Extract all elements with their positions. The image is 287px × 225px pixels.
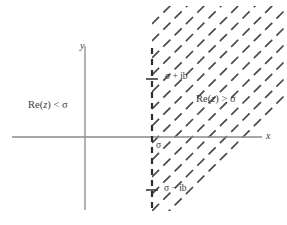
label-sigma-plus-ib: σ + ib (165, 72, 188, 82)
region-right-suffix: ) > σ (215, 93, 235, 104)
x-axis-label: x (266, 131, 270, 141)
label-sigma-origin: σ (156, 141, 161, 151)
region-right-prefix: Re( (196, 93, 211, 104)
region-left-suffix: ) < σ (47, 99, 67, 110)
region-label-left: Re(z) < σ (28, 100, 68, 111)
complex-plane-figure: y x Re(z) < σ Re(z) > σ σ + ib σ − ib σ (0, 0, 287, 225)
region-left-prefix: Re( (28, 99, 43, 110)
figure-canvas (0, 0, 287, 225)
region-label-right: Re(z) > σ (196, 94, 236, 105)
label-sigma-minus-ib: σ − ib (164, 184, 187, 194)
y-axis-label: y (80, 41, 84, 51)
